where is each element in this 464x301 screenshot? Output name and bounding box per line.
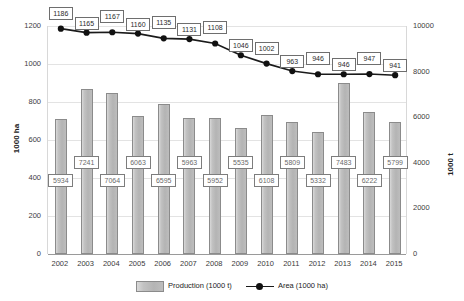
production-value-label: 6108	[254, 174, 279, 187]
right-tick-label: 8000	[413, 68, 457, 76]
x-axis-label: 2015	[378, 260, 410, 268]
legend-item-area[interactable]: Area (1000 ha)	[246, 282, 328, 291]
plot-area: 5934724170646063659559635952553561085809…	[47, 26, 407, 254]
production-value-label: 5332	[306, 174, 331, 187]
area-value-label: 946	[306, 52, 330, 65]
area-value-label: 947	[357, 52, 381, 65]
area-value-label: 1186	[49, 7, 73, 20]
area-value-label: 1135	[152, 16, 176, 29]
gridline	[48, 254, 406, 255]
left-tick-label: 600	[0, 136, 41, 144]
production-value-label: 5934	[48, 174, 73, 187]
area-value-label: 1002	[255, 42, 279, 55]
area-value-label: 963	[280, 55, 304, 68]
right-tick-label: 6000	[413, 113, 457, 121]
legend-item-production[interactable]: Production (1000 t)	[136, 281, 232, 292]
production-value-label: 6595	[151, 174, 176, 187]
production-value-label: 7241	[74, 156, 99, 169]
production-value-label: 7064	[100, 174, 125, 187]
production-value-label: 5952	[203, 174, 228, 187]
left-tick-label: 0	[0, 250, 41, 258]
right-tick-label: 4000	[413, 159, 457, 167]
area-value-label: 1160	[126, 18, 150, 31]
chart-container: 1000 ha 1000 t 020040060080010001200 020…	[0, 0, 464, 301]
production-value-label: 7483	[331, 156, 356, 169]
legend-label-area: Area (1000 ha)	[278, 282, 328, 290]
production-value-label: 5963	[177, 156, 202, 169]
left-tick-label: 800	[0, 98, 41, 106]
production-value-label: 5799	[383, 156, 408, 169]
production-value-label: 5809	[280, 156, 305, 169]
legend-label-production: Production (1000 t)	[168, 282, 232, 290]
right-tick-label: 0	[413, 250, 457, 258]
production-value-label: 6063	[126, 156, 151, 169]
area-value-label: 1165	[75, 17, 99, 30]
right-tick-label: 2000	[413, 204, 457, 212]
production-value-label: 5535	[228, 156, 253, 169]
left-tick-label: 400	[0, 174, 41, 182]
left-tick-label: 200	[0, 212, 41, 220]
area-value-label: 946	[332, 58, 356, 71]
area-value-label: 1046	[229, 39, 253, 52]
left-tick-label: 1200	[0, 22, 41, 30]
area-value-label: 1131	[177, 23, 201, 36]
chart-legend: Production (1000 t) Area (1000 ha)	[0, 278, 464, 294]
area-value-label: 941	[383, 59, 407, 72]
production-value-label: 6222	[357, 174, 382, 187]
left-tick-label: 1000	[0, 60, 41, 68]
area-value-label: 1167	[100, 10, 124, 23]
bar-swatch-icon	[136, 281, 164, 292]
right-tick-label: 10000	[413, 22, 457, 30]
area-value-label: 1108	[203, 21, 227, 34]
line-marker-icon	[246, 282, 274, 291]
